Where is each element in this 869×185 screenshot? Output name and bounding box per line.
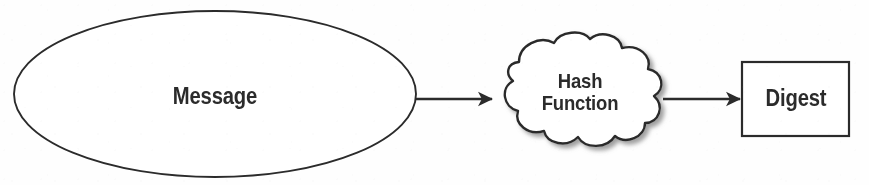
diagram-graphic [0,0,869,185]
node-hash-function-shape [505,33,662,146]
node-digest-shape [742,62,849,136]
diagram-canvas: Message Hash Function Digest [0,0,869,185]
node-message-shape [14,11,416,177]
